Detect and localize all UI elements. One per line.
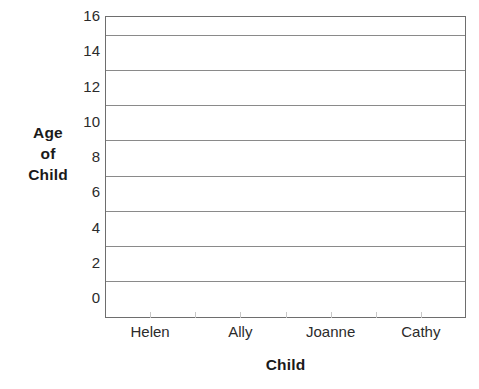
y-axis-tick-label: 2	[68, 255, 100, 270]
gridline	[106, 246, 465, 247]
gridline	[106, 176, 465, 177]
x-axis-tick-labels: HelenAllyJoanneCathy	[105, 322, 466, 346]
x-axis-tick-marks	[105, 312, 466, 319]
y-axis-tick-label: 8	[68, 149, 100, 164]
gridline	[106, 105, 465, 106]
x-axis-title: Child	[105, 356, 466, 374]
gridline	[106, 281, 465, 282]
x-axis-tick-mark	[376, 312, 377, 318]
y-axis-tick-label: 6	[68, 184, 100, 199]
x-axis-tick-mark	[421, 312, 422, 318]
x-axis-tick-label: Helen	[105, 322, 195, 346]
y-axis-tick-label: 0	[68, 290, 100, 305]
y-axis-tick-label: 16	[68, 8, 100, 23]
gridline	[106, 140, 465, 141]
bar-chart-figure: Age of Child 0246810121416 HelenAllyJoan…	[0, 0, 479, 389]
y-axis-tick-label: 4	[68, 220, 100, 235]
y-axis-tick-labels: 0246810121416	[62, 16, 100, 318]
x-axis-tick-mark	[331, 312, 332, 318]
y-axis-tick-label: 14	[68, 43, 100, 58]
x-axis-tick-mark	[240, 312, 241, 318]
x-axis-tick-mark	[286, 312, 287, 318]
x-axis-tick-mark	[195, 312, 196, 318]
x-axis-tick-mark	[150, 312, 151, 318]
x-axis-tick-label: Joanne	[286, 322, 376, 346]
plot-area	[105, 16, 466, 318]
x-axis-tick-label: Cathy	[376, 322, 466, 346]
gridline	[106, 211, 465, 212]
gridline	[106, 35, 465, 36]
y-axis-tick-label: 12	[68, 79, 100, 94]
x-axis-tick-label: Ally	[195, 322, 285, 346]
gridline	[106, 70, 465, 71]
y-axis-tick-label: 10	[68, 114, 100, 129]
